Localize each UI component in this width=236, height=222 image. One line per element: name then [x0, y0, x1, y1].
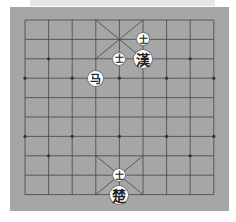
janggi-board[interactable]: 士士漢马士楚 — [10, 7, 229, 211]
piece-glyph: 楚 — [112, 185, 126, 205]
piece-glyph: 马 — [90, 70, 101, 86]
piece-glyph: 士 — [139, 33, 148, 46]
cho-advisor-piece[interactable]: 士 — [113, 169, 125, 181]
piece-glyph: 士 — [115, 52, 124, 65]
han-advisor-2-piece[interactable]: 士 — [113, 53, 125, 65]
piece-glyph: 漢 — [136, 49, 150, 69]
title-banner: — — — — — [30, 0, 215, 6]
cho-general-piece[interactable]: 楚 — [110, 186, 128, 204]
horse-piece[interactable]: 马 — [88, 71, 103, 86]
banner-text: — — — — — [30, 0, 215, 5]
han-general-piece[interactable]: 漢 — [134, 50, 152, 68]
han-advisor-1-piece[interactable]: 士 — [137, 33, 149, 45]
piece-glyph: 士 — [115, 169, 124, 182]
